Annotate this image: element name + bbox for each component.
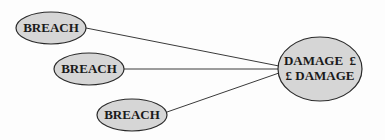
edge-breach-3-to-damage (167, 73, 279, 112)
breach-node-3-label: BREACH (104, 108, 160, 123)
breach-node-1: BREACH (16, 12, 86, 44)
breach-node-2: BREACH (54, 53, 124, 85)
diagram-canvas: BREACH BREACH BREACH DAMAGE £ £ DAMAGE (0, 0, 385, 140)
damage-node: DAMAGE £ £ DAMAGE (278, 37, 362, 101)
breach-node-1-label: BREACH (23, 21, 79, 36)
damage-node-line1: DAMAGE £ (284, 54, 356, 69)
breach-node-2-label: BREACH (61, 62, 117, 77)
breach-node-3: BREACH (97, 99, 167, 131)
damage-node-line2: £ DAMAGE (286, 69, 355, 84)
